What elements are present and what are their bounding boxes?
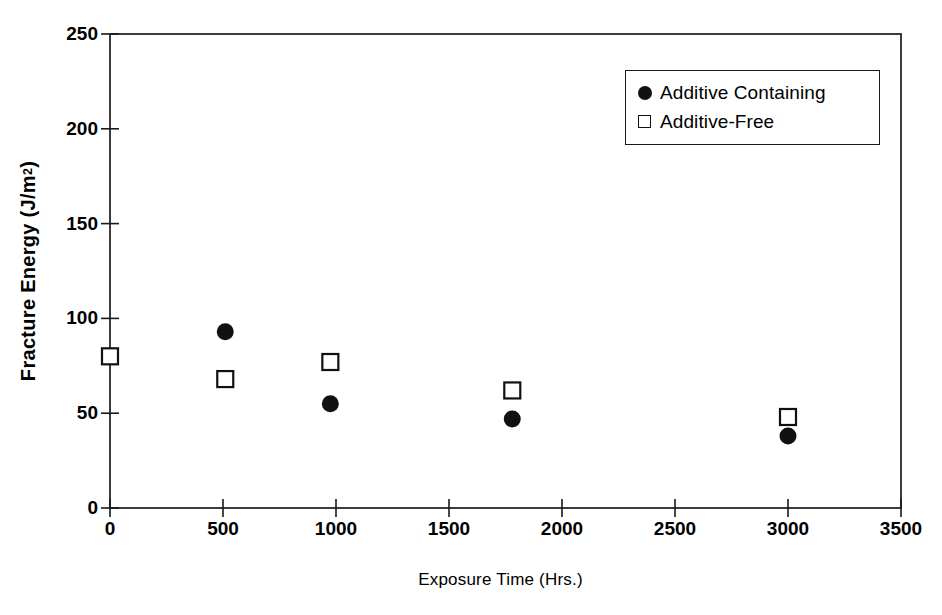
x-tick-label: 500: [183, 518, 263, 540]
x-tick-label: 1000: [296, 518, 376, 540]
y-tick-label-text: 250: [42, 24, 98, 43]
legend-item-additive-containing: Additive Containing: [638, 78, 869, 107]
data-point-filled-circle: [217, 323, 234, 340]
legend-item-label: Additive Containing: [660, 82, 826, 104]
chart-figure: Fracture Energy (J/m2) 050100150200250 0…: [0, 0, 942, 615]
x-tick-label: 3000: [748, 518, 828, 540]
data-point-open-square: [780, 409, 796, 425]
legend: Additive Containing Additive-Free: [625, 70, 880, 145]
data-point-open-square: [102, 348, 118, 364]
y-tick-label-text: 150: [42, 214, 98, 233]
legend-item-additive-free: Additive-Free: [638, 107, 869, 136]
data-point-filled-circle: [322, 395, 339, 412]
x-tick-label: 3500: [861, 518, 941, 540]
legend-item-label: Additive-Free: [660, 111, 774, 133]
y-tick-label-text: 100: [42, 308, 98, 327]
open-square-icon: [638, 112, 660, 132]
x-tick-label: 2500: [635, 518, 715, 540]
y-tick-label-text: 0: [42, 498, 98, 517]
y-tick-label-text: 50: [42, 403, 98, 422]
data-point-filled-circle: [504, 410, 521, 427]
data-markers: [102, 323, 797, 444]
data-point-filled-circle: [780, 427, 797, 444]
data-point-open-square: [504, 382, 520, 398]
data-point-open-square: [217, 371, 233, 387]
data-point-open-square: [322, 354, 338, 370]
x-axis-label: Exposure Time (Hrs.): [110, 570, 891, 590]
filled-circle-icon: [638, 83, 660, 103]
x-tick-label: 0: [70, 518, 150, 540]
x-tick-label: 1500: [409, 518, 489, 540]
y-tick-label-text: 200: [42, 119, 98, 138]
x-tick-label: 2000: [522, 518, 602, 540]
